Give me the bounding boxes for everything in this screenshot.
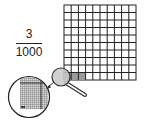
decimal-grid-diagram xyxy=(0,0,148,131)
zoom-circle xyxy=(9,73,50,118)
hundred-grid xyxy=(64,5,136,80)
